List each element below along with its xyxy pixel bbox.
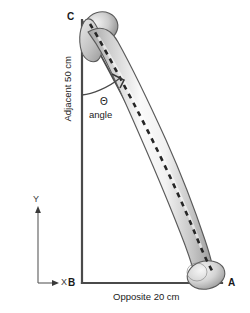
- vertex-label-a: A: [228, 278, 235, 288]
- theta-symbol: Θ: [100, 97, 108, 107]
- angle-text-label: angle: [89, 110, 112, 120]
- bone-triangle-figure: C B A Adjacent 50 cm Opposite 20 cm Θ an…: [0, 0, 250, 313]
- axis-label-y: Y: [33, 195, 39, 204]
- axis-label-x: X: [61, 278, 67, 287]
- axis-y-arrowhead: [35, 206, 41, 213]
- humerus-bone: [80, 7, 228, 292]
- opposite-side-label: Opposite 20 cm: [113, 292, 180, 302]
- xy-axis-indicator: [35, 206, 59, 286]
- figure-canvas: [0, 0, 250, 313]
- adjacent-side-label: Adjacent 50 cm: [63, 56, 73, 121]
- axis-x-arrowhead: [52, 280, 59, 286]
- vertex-label-b: B: [68, 278, 75, 288]
- vertex-label-c: C: [67, 12, 74, 22]
